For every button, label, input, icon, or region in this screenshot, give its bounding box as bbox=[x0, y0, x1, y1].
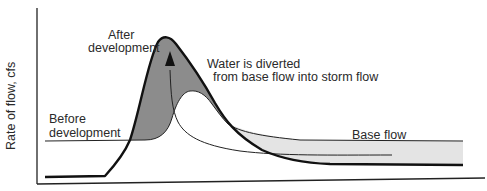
hydrograph-figure: Rate of flow, cfs After development Befo… bbox=[0, 0, 487, 191]
before-development-label-line1: Before bbox=[49, 112, 86, 126]
diverted-label-line1: Water is diverted bbox=[207, 57, 300, 71]
base-flow-label: Base flow bbox=[352, 128, 406, 142]
hydrograph-svg bbox=[0, 0, 487, 191]
base-flow-shaded-area bbox=[226, 122, 463, 165]
y-axis-label: Rate of flow, cfs bbox=[4, 62, 18, 150]
before-development-label-line2: development bbox=[49, 126, 121, 140]
after-development-label-line1: After bbox=[108, 28, 134, 42]
x-axis bbox=[37, 178, 485, 184]
diverted-label-line2: from base flow into storm flow bbox=[213, 70, 378, 84]
after-development-label-line2: development bbox=[88, 41, 160, 55]
